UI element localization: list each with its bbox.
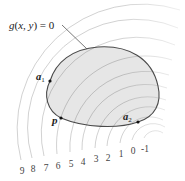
point-p-dot bbox=[59, 116, 62, 119]
level-label-2: 2 bbox=[106, 153, 111, 163]
contour-line-neg1 bbox=[144, 131, 163, 138]
level-label-neg1: -1 bbox=[141, 144, 149, 154]
point-a1-sub: 1 bbox=[41, 76, 45, 84]
level-label-8: 8 bbox=[31, 164, 36, 174]
point-a2-sub: 2 bbox=[128, 116, 132, 124]
contour-diagram: g(x, y) = 0 a1 p a2 9 8 7 6 5 4 3 2 1 0 … bbox=[0, 0, 185, 181]
point-p-label: p bbox=[51, 114, 58, 126]
level-label-4: 4 bbox=[81, 157, 86, 167]
level-label-1: 1 bbox=[119, 149, 124, 159]
level-label-3: 3 bbox=[94, 154, 99, 164]
point-a2-dot bbox=[136, 120, 139, 123]
diagram-canvas: g(x, y) = 0 a1 p a2 9 8 7 6 5 4 3 2 1 0 … bbox=[0, 0, 185, 181]
constraint-label: g(x, y) = 0 bbox=[9, 19, 55, 32]
level-label-7: 7 bbox=[44, 163, 49, 173]
point-a1-dot bbox=[48, 79, 51, 82]
level-label-5: 5 bbox=[69, 159, 74, 169]
constraint-label-rest: ) = 0 bbox=[33, 19, 54, 32]
contour-level-labels: 9 8 7 6 5 4 3 2 1 0 -1 bbox=[20, 144, 150, 176]
level-label-0: 0 bbox=[131, 146, 136, 156]
level-label-9: 9 bbox=[20, 166, 25, 176]
level-label-6: 6 bbox=[56, 161, 61, 171]
